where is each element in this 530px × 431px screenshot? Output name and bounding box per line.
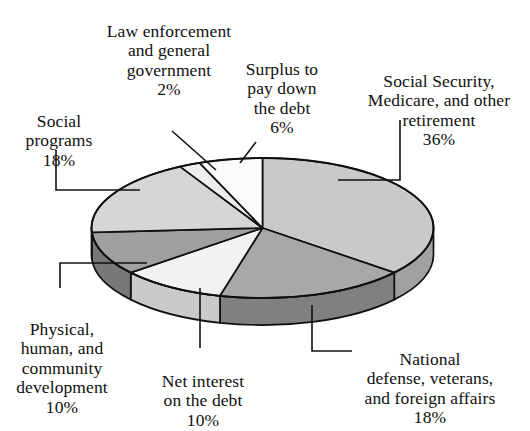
pie-top-face	[92, 158, 434, 298]
label-law-enforcement-text: Law enforcement and general government	[107, 21, 231, 80]
label-social-security-pct: 36%	[350, 130, 528, 150]
label-net-interest-text: Net interest on the debt	[162, 371, 244, 411]
pie-chart-figure: Law enforcement and general government 2…	[0, 0, 530, 431]
label-social-programs-text: Social programs	[26, 111, 93, 151]
label-physical-human-pct: 10%	[0, 398, 127, 418]
label-social-security-text: Social Security, Medicare, and other ret…	[368, 71, 510, 130]
label-social-programs-pct: 18%	[0, 151, 120, 171]
label-national-defense: National defense, veterans, and foreign …	[338, 330, 522, 431]
label-social-security: Social Security, Medicare, and other ret…	[350, 52, 528, 170]
label-surplus-text: Surplus to pay down the debt	[246, 59, 318, 118]
label-physical-human: Physical, human, and community developme…	[0, 300, 127, 431]
label-surplus: Surplus to pay down the debt 6%	[222, 40, 342, 158]
label-net-interest: Net interest on the debt 10%	[138, 352, 268, 431]
label-national-defense-text: National defense, veterans, and foreign …	[365, 349, 496, 408]
label-national-defense-pct: 18%	[338, 408, 522, 428]
label-social-programs: Social programs 18%	[0, 92, 120, 190]
label-physical-human-text: Physical, human, and community developme…	[16, 319, 108, 398]
label-net-interest-pct: 10%	[138, 411, 268, 431]
label-surplus-pct: 6%	[222, 118, 342, 138]
